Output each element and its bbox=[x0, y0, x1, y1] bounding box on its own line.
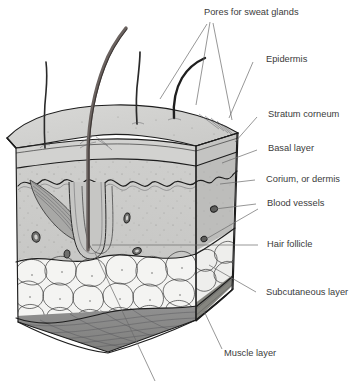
label-blood-vessels: Blood vessels bbox=[267, 198, 325, 208]
leader-muscle-layer bbox=[204, 311, 222, 349]
label-subcutaneous: Subcutaneous layer bbox=[266, 287, 348, 297]
label-muscle-layer: Muscle layer bbox=[224, 348, 276, 358]
label-stratum-corneum: Stratum corneum bbox=[268, 109, 340, 119]
leader-pores-b bbox=[196, 22, 210, 105]
leader-epidermis bbox=[229, 62, 253, 118]
label-basal-layer: Basal layer bbox=[268, 143, 314, 153]
leader-pores-c bbox=[213, 23, 232, 120]
hair-shaft-4 bbox=[174, 58, 205, 118]
label-hair-follicle: Hair follicle bbox=[267, 239, 312, 249]
label-epidermis: Epidermis bbox=[266, 54, 308, 64]
label-corium: Corium, or dermis bbox=[266, 174, 340, 184]
skin-cross-section-figure: Pores for sweat glands Epidermis Stratum… bbox=[0, 0, 361, 381]
label-pores: Pores for sweat glands bbox=[204, 7, 299, 17]
skin-block bbox=[7, 28, 238, 356]
skin-diagram-svg: Pores for sweat glands Epidermis Stratum… bbox=[0, 0, 361, 381]
leader-stratum-corneum bbox=[235, 117, 257, 142]
